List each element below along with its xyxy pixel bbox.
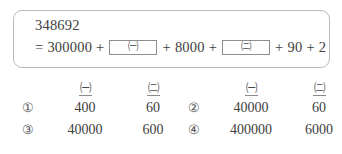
term-90: 90 [287,39,302,56]
header-symbol-b: ㈡ [147,82,160,96]
blank-box-a[interactable]: ㈠ [109,40,157,55]
header-symbol-b: ㈡ [313,82,326,96]
option-row-1[interactable]: ① 400 60 [22,100,184,122]
header-cell-b-left: ㈡ [122,80,184,96]
equals-sign: = [35,39,43,56]
option-row-2[interactable]: ② 40000 60 [188,100,342,122]
option-header-row-left: ㈠ ㈡ [22,80,184,100]
option-2-value-a: 40000 [214,100,288,116]
problem-equation: = 300000 + ㈠ + 8000 + ㈡ + 90 + 2 [35,39,326,56]
option-marker-1: ① [22,100,48,116]
option-4-value-b: 6000 [288,122,342,138]
option-group-right: ㈠ ㈡ ② 40000 60 ④ 400000 6000 [188,80,342,144]
option-marker-4: ④ [188,122,214,138]
header-symbol-a: ㈠ [79,82,92,96]
header-cell-b-right: ㈡ [288,80,342,96]
header-cell-a-right: ㈠ [214,80,288,96]
option-2-value-b: 60 [288,100,342,116]
option-group-left: ㈠ ㈡ ① 400 60 ③ 40000 600 [22,80,184,144]
option-4-value-a: 400000 [214,122,288,138]
plus-sign-2: + [162,39,170,56]
option-row-4[interactable]: ④ 400000 6000 [188,122,342,144]
term-8000: 8000 [175,39,205,56]
plus-sign-1: + [96,39,104,56]
plus-sign-3: + [209,39,217,56]
problem-number: 348692 [35,17,80,34]
option-3-value-b: 600 [122,122,184,138]
problem-statement-box: 348692 = 300000 + ㈠ + 8000 + ㈡ + 90 + 2 [13,10,330,68]
blank-box-b[interactable]: ㈡ [222,40,270,55]
option-3-value-a: 40000 [48,122,122,138]
term-300000: 300000 [47,39,92,56]
option-marker-3: ③ [22,122,48,138]
option-marker-2: ② [188,100,214,116]
term-2: 2 [319,39,326,56]
option-row-3[interactable]: ③ 40000 600 [22,122,184,144]
plus-sign-5: + [306,39,314,56]
header-cell-a-left: ㈠ [48,80,122,96]
option-header-row-right: ㈠ ㈡ [188,80,342,100]
option-1-value-b: 60 [122,100,184,116]
option-1-value-a: 400 [48,100,122,116]
header-symbol-a: ㈠ [245,82,258,96]
plus-sign-4: + [275,39,283,56]
